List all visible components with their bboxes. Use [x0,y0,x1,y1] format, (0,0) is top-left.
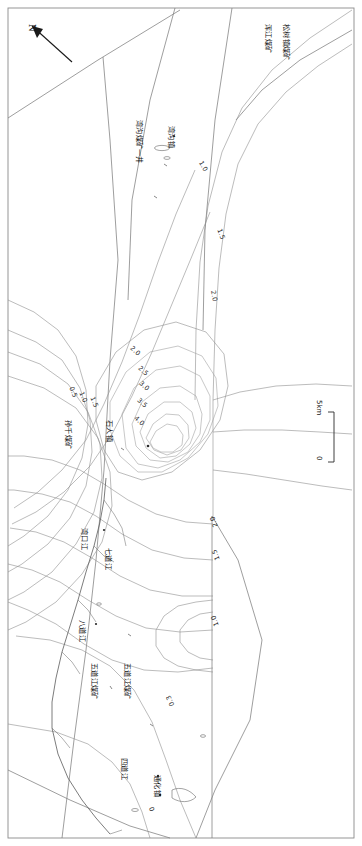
north-arrow [32,26,72,62]
river-network [52,478,126,834]
contour-ticks [110,164,167,726]
contour-map-figure: N 5km 0 浑江煤矿松树镇煤矿湾沟煤矿一井湾沟镇孙千煤矿石人镇湾口江七道江八… [0,0,362,846]
boundary-lines [8,8,352,838]
map-canvas [0,0,362,846]
scale-bar [328,412,334,462]
contour-lines [8,10,352,838]
settlement-markers [95,135,175,796]
map-frame [8,8,354,838]
water-bodies [97,145,206,811]
